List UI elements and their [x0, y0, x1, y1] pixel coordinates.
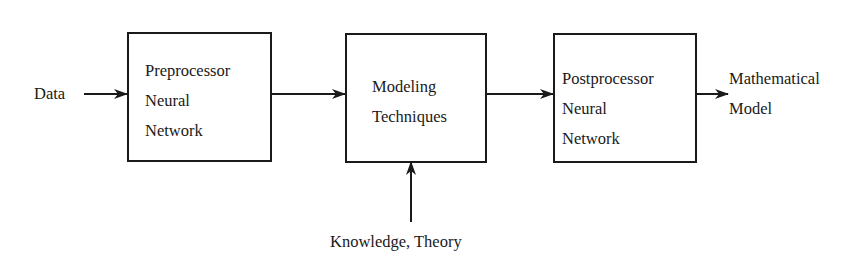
output-line-2: Model [729, 94, 820, 124]
knowledge-theory-label: Knowledge, Theory [330, 227, 462, 257]
postprocessor-line-1: Postprocessor [562, 64, 654, 94]
output-label: Mathematical Model [729, 64, 820, 124]
modeling-label: Modeling Techniques [372, 72, 447, 132]
postprocessor-label: Postprocessor Neural Network [562, 64, 654, 154]
preprocessor-line-3: Network [145, 116, 230, 146]
flow-diagram: Data Preprocessor Neural Network Modelin… [0, 0, 868, 270]
preprocessor-line-1: Preprocessor [145, 56, 230, 86]
postprocessor-line-3: Network [562, 124, 654, 154]
preprocessor-label: Preprocessor Neural Network [145, 56, 230, 146]
postprocessor-line-2: Neural [562, 94, 654, 124]
preprocessor-line-2: Neural [145, 86, 230, 116]
modeling-line-2: Techniques [372, 102, 447, 132]
output-line-1: Mathematical [729, 64, 820, 94]
modeling-line-1: Modeling [372, 72, 447, 102]
data-input-label: Data [34, 79, 65, 109]
